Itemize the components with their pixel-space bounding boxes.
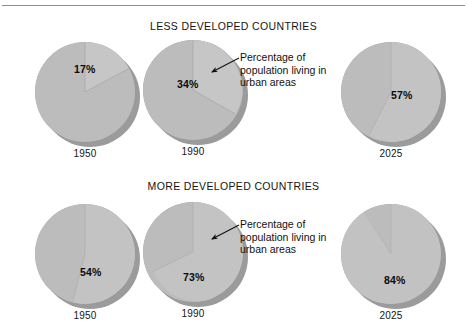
pie-value-label: 34% [177,78,199,90]
annotation-line-2: population living in [240,231,326,244]
pie-value-label: 57% [391,89,413,101]
pie-year-label: 2025 [341,310,441,321]
pie-chart-less-1950: 17% 1950 [35,42,141,164]
annotation-line-1: Percentage of [240,51,305,64]
annotation-line-3: urban areas [240,243,296,256]
pie-value-label: 73% [183,271,205,283]
urbanization-figure: LESS DEVELOPED COUNTRIES 17% 1950 34% [0,0,467,321]
section-title-less-developed: LESS DEVELOPED COUNTRIES [0,20,467,32]
pie-year-label: 1950 [35,148,135,159]
pie-year-label: 1990 [143,146,243,157]
pie-disc [35,204,135,304]
pie-year-label: 1950 [35,310,135,321]
annotation-less-developed: Percentage of population living in urban… [209,52,344,97]
pie-disc [341,204,441,304]
annotation-line-1: Percentage of [240,218,305,231]
pie-disc [35,42,135,142]
pie-chart-less-2025: 57% 2025 [341,42,447,164]
section-title-more-developed: MORE DEVELOPED COUNTRIES [0,180,467,192]
pie-year-label: 1990 [143,308,243,319]
top-divider-rule [2,5,465,6]
pie-year-label: 2025 [341,148,441,159]
annotation-more-developed: Percentage of population living in urban… [209,219,344,264]
pie-value-label: 54% [80,266,102,278]
annotation-line-3: urban areas [240,76,296,89]
pie-value-label: 84% [384,274,406,286]
annotation-line-2: population living in [240,64,326,77]
pie-chart-more-1950: 54% 1950 [35,204,141,321]
pie-chart-more-2025: 84% 2025 [341,204,447,321]
pie-value-label: 17% [74,63,96,75]
